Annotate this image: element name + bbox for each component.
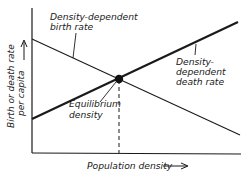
y-axis-label-line2: per capita [16,70,26,117]
birth-rate-line [32,39,240,135]
equilibrium-label-line2: density [69,109,103,120]
death-rate-label-line3: death rate [176,76,224,87]
density-dependence-diagram: Density-dependent birth rate Density- de… [0,0,249,177]
x-axis-label: Population density [87,160,173,171]
equilibrium-label-line1: Equilibrium [69,98,121,109]
x-axis [32,153,241,154]
birth-rate-leader [73,33,76,58]
birth-rate-label-line2: birth rate [50,21,94,32]
death-rate-leader [195,44,196,55]
equilibrium-point [115,75,123,83]
y-axis-arrow-icon [21,40,27,60]
y-axis-label-line1: Birth or death rate [6,44,16,128]
